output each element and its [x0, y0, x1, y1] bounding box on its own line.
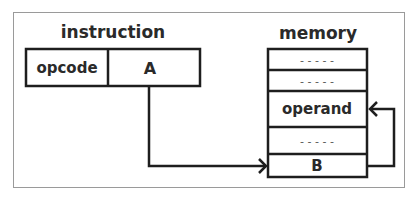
- memory-title: memory: [279, 23, 357, 43]
- address-field-a: A: [144, 59, 157, 78]
- memory-cell-b: B: [311, 157, 322, 175]
- memory-cell-placeholder: - - - - -: [300, 54, 334, 67]
- indirect-addressing-diagram: instruction opcode A memory - - - - - - …: [0, 0, 414, 198]
- instruction-title: instruction: [61, 22, 165, 42]
- memory-cell-operand: operand: [282, 100, 352, 118]
- memory-cell-placeholder: - - - - -: [300, 75, 334, 88]
- instruction-box: opcode A: [26, 49, 200, 86]
- memory-stack: - - - - - - - - - - operand - - - - - B: [268, 49, 367, 177]
- opcode-field: opcode: [36, 59, 97, 77]
- memory-cell-placeholder: - - - - -: [300, 135, 334, 148]
